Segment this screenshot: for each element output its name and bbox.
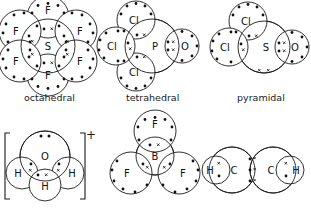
atom-label-F-lower-left: F bbox=[13, 56, 19, 67]
atom-label-C-right: C bbox=[268, 165, 275, 176]
atom-label-B: B bbox=[152, 151, 159, 162]
atom-label-H-right: H bbox=[68, 168, 76, 179]
structure-sf6: S F F F F F F bbox=[0, 0, 97, 96]
atom-label-O2: O bbox=[291, 42, 299, 53]
label-tetrahedral: tetrahedral bbox=[126, 92, 179, 103]
atom-label-H-right-2: H bbox=[292, 165, 300, 176]
atom-label-Cl-top: Cl bbox=[129, 15, 139, 26]
charge-plus-hydronium: + bbox=[86, 128, 96, 142]
atom-label-F-right-2: F bbox=[180, 168, 186, 179]
atom-label-S2: S bbox=[263, 42, 269, 53]
atom-label-H-left: H bbox=[14, 168, 22, 179]
atom-label-C-left: C bbox=[231, 165, 238, 176]
label-pyramidal: pyramidal bbox=[237, 92, 285, 103]
atom-label-P: P bbox=[152, 41, 158, 52]
structure-acetylene: C C H H bbox=[202, 147, 304, 193]
atom-label-F-top: F bbox=[45, 5, 51, 16]
atom-label-F-lower-right: F bbox=[77, 56, 83, 67]
atom-label-O: O bbox=[181, 41, 189, 52]
atom-label-F-upper-right: F bbox=[77, 26, 83, 37]
structure-pocl3: P Cl Cl Cl O bbox=[97, 1, 199, 91]
atom-label-Cl-bottom: Cl bbox=[129, 67, 139, 78]
structure-socl2: S Cl Cl O bbox=[210, 2, 309, 73]
atom-circle-H-right-2 bbox=[276, 156, 304, 184]
atom-circle-F-lower-right bbox=[55, 40, 97, 82]
figure-canvas: S F F F F F F bbox=[0, 0, 311, 208]
structure-hydronium: O H H H bbox=[5, 131, 85, 201]
atom-label-F-left-2: F bbox=[124, 168, 130, 179]
atom-circle-F-lower-left bbox=[0, 40, 41, 82]
atom-label-F-upper-left: F bbox=[13, 26, 19, 37]
label-octahedral: octahedral bbox=[24, 92, 75, 103]
atom-label-H-left-2: H bbox=[206, 165, 214, 176]
atom-label-O3: O bbox=[41, 151, 49, 162]
atom-label-Cl-left-2: Cl bbox=[220, 42, 230, 53]
structure-bf3: B F F F bbox=[110, 110, 200, 194]
lewis-structures-svg: S F F F F F F bbox=[0, 0, 311, 208]
atom-label-F-bottom: F bbox=[45, 70, 51, 81]
atom-label-S: S bbox=[45, 41, 51, 52]
atom-label-H-bottom: H bbox=[41, 181, 49, 192]
atom-label-F-top-2: F bbox=[152, 119, 158, 130]
atom-label-Cl-top-2: Cl bbox=[241, 16, 251, 27]
atom-label-Cl-left: Cl bbox=[107, 41, 117, 52]
